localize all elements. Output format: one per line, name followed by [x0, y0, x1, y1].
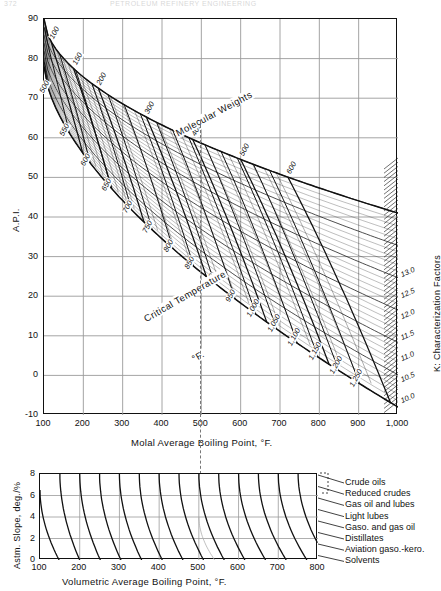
main-x-tick: 700: [271, 418, 286, 428]
main-x-tick: 100: [35, 418, 50, 428]
slope-x-tick: 500: [190, 562, 205, 572]
main-x-tick: 200: [75, 418, 90, 428]
k-factor-label-12-0: 12.0: [399, 308, 416, 321]
legend-item-distillates: Distillates: [345, 534, 384, 543]
k-factor-label-10-5: 10.5: [399, 371, 416, 384]
slope-x-axis-title: Volumetric Average Boiling Point, °F.: [62, 576, 227, 587]
k-factor-label-13-0: 13.0: [399, 266, 416, 279]
astm-slope-chart: Astm. Slope, deg./% 02468 10020030040050…: [0, 455, 441, 591]
slope-x-tick: 300: [111, 562, 126, 572]
slope-x-tick: 600: [230, 562, 245, 572]
main-nomograph-chart: A.P.I. -100102030405060708090 1002003004…: [0, 0, 441, 455]
main-x-tick: 900: [350, 418, 365, 428]
legend-item-gas-oil-and-lubes: Gas oil and lubes: [345, 500, 415, 509]
legend-item-solvents: Solvents: [345, 556, 380, 565]
legend-item-crude-oils: Crude oils: [345, 478, 386, 487]
slope-x-tick: 700: [270, 562, 285, 572]
legend-item-reduced-crudes: Reduced crudes: [345, 489, 411, 498]
slope-y-tick: 6: [30, 490, 35, 500]
main-y2-axis-title: K: Characterization Factors: [432, 255, 441, 372]
k-factor-label-10-0: 10.0: [399, 392, 416, 405]
slope-y-tick: 8: [30, 468, 35, 478]
reference-line-main: [200, 120, 201, 414]
main-y-tick: 70: [28, 92, 38, 102]
k-factor-label-12-5: 12.5: [399, 287, 416, 300]
slope-x-tick: 400: [151, 562, 166, 572]
main-y-tick: 60: [28, 132, 38, 142]
k-factor-label-11-5: 11.5: [399, 329, 416, 342]
slope-plot-area: [39, 473, 317, 559]
legend-item-aviation-gaso-kero: Aviation gaso.-kero.: [345, 545, 424, 554]
slope-y-tick: 2: [30, 533, 35, 543]
main-y-tick: 10: [28, 330, 38, 340]
main-y-axis-title: A.P.I.: [10, 208, 21, 232]
slope-y-axis-title: Astm. Slope, deg./%: [12, 482, 22, 569]
main-y-tick: 0: [33, 369, 38, 379]
main-x-tick: 300: [114, 418, 129, 428]
slope-x-tick: 100: [31, 562, 46, 572]
main-x-tick: 400: [153, 418, 168, 428]
legend-item-gaso-and-gas-oil: Gaso. and gas oil: [345, 523, 415, 532]
main-y-tick: 20: [28, 290, 38, 300]
main-y-tick: 80: [28, 53, 38, 63]
main-y-tick: 40: [28, 211, 38, 221]
main-x-axis-title: Molal Average Boiling Point, °F.: [131, 437, 273, 448]
main-x-tick: 800: [311, 418, 326, 428]
main-x-tick: 1,000: [386, 418, 409, 428]
main-y-tick: 90: [28, 13, 38, 23]
legend-item-light-lubes: Light lubes: [345, 512, 389, 521]
main-y-tick: 30: [28, 251, 38, 261]
k-factor-label-11-0: 11.0: [399, 350, 416, 363]
slope-x-tick: 200: [71, 562, 86, 572]
slope-y-tick: 4: [30, 511, 35, 521]
main-x-tick: 600: [232, 418, 247, 428]
main-y-tick: 50: [28, 171, 38, 181]
